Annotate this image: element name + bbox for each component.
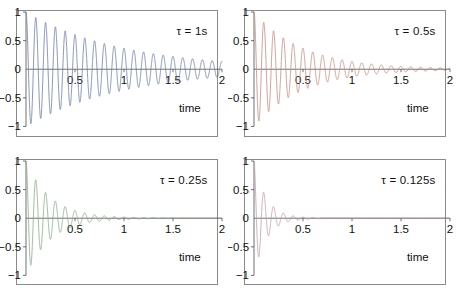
svg-text:0: 0 xyxy=(15,63,21,75)
svg-text:1: 1 xyxy=(121,223,127,235)
svg-text:−0.5: −0.5 xyxy=(228,240,249,252)
svg-text:1: 1 xyxy=(243,155,249,167)
svg-text:0.5: 0.5 xyxy=(295,223,311,235)
tau-annotation: τ = 0.5s xyxy=(394,25,435,37)
svg-text:0.5: 0.5 xyxy=(5,35,21,47)
svg-text:−1: −1 xyxy=(236,120,249,132)
svg-text:2: 2 xyxy=(447,223,453,235)
plot-area: 0.511.5210.50−0.5−1 xyxy=(228,149,456,297)
svg-text:1.5: 1.5 xyxy=(393,74,409,86)
damped-oscillation-figure-grid: 0.511.5210.50−0.5−1 τ = 1s time 0.511.52… xyxy=(0,0,456,297)
svg-text:2: 2 xyxy=(219,74,225,86)
plot-area: 0.511.5210.50−0.5−1 xyxy=(0,149,228,297)
svg-text:−0.5: −0.5 xyxy=(0,92,21,104)
plot-panel-tau-1: 0.511.5210.50−0.5−1 τ = 1s time xyxy=(0,0,228,149)
svg-text:0.5: 0.5 xyxy=(67,74,83,86)
svg-text:1.5: 1.5 xyxy=(165,223,181,235)
svg-text:1: 1 xyxy=(121,74,127,86)
svg-text:0: 0 xyxy=(243,63,249,75)
tau-annotation: τ = 0.25s xyxy=(160,174,208,186)
svg-text:1: 1 xyxy=(349,74,355,86)
plot-panel-tau-0-25: 0.511.5210.50−0.5−1 τ = 0.25s time xyxy=(0,149,228,297)
plot-area: 0.511.5210.50−0.5−1 xyxy=(0,0,228,149)
svg-text:1.5: 1.5 xyxy=(393,223,409,235)
svg-text:1: 1 xyxy=(349,223,355,235)
svg-text:−1: −1 xyxy=(8,269,21,281)
svg-text:0.5: 0.5 xyxy=(67,223,83,235)
svg-text:0.5: 0.5 xyxy=(5,183,21,195)
plot-panel-tau-0-125: 0.511.5210.50−0.5−1 τ = 0.125s time xyxy=(228,149,456,297)
x-axis-label: time xyxy=(407,251,429,263)
x-axis-label: time xyxy=(407,102,429,114)
svg-text:2: 2 xyxy=(447,74,453,86)
svg-text:1: 1 xyxy=(15,6,21,18)
svg-text:−1: −1 xyxy=(236,269,249,281)
svg-text:−0.5: −0.5 xyxy=(0,240,21,252)
svg-text:−0.5: −0.5 xyxy=(228,92,249,104)
plot-panel-tau-0-5: 0.511.5210.50−0.5−1 τ = 0.5s time xyxy=(228,0,456,149)
svg-text:−1: −1 xyxy=(8,120,21,132)
plot-area: 0.511.5210.50−0.5−1 xyxy=(228,0,456,149)
svg-text:0: 0 xyxy=(15,212,21,224)
svg-text:0.5: 0.5 xyxy=(233,35,249,47)
tau-annotation: τ = 0.125s xyxy=(381,174,435,186)
x-axis-label: time xyxy=(179,251,201,263)
svg-text:1: 1 xyxy=(243,6,249,18)
svg-text:2: 2 xyxy=(219,223,225,235)
x-axis-label: time xyxy=(179,102,201,114)
svg-text:1: 1 xyxy=(15,155,21,167)
svg-text:0.5: 0.5 xyxy=(233,183,249,195)
tau-annotation: τ = 1s xyxy=(176,25,207,37)
svg-text:0: 0 xyxy=(243,212,249,224)
